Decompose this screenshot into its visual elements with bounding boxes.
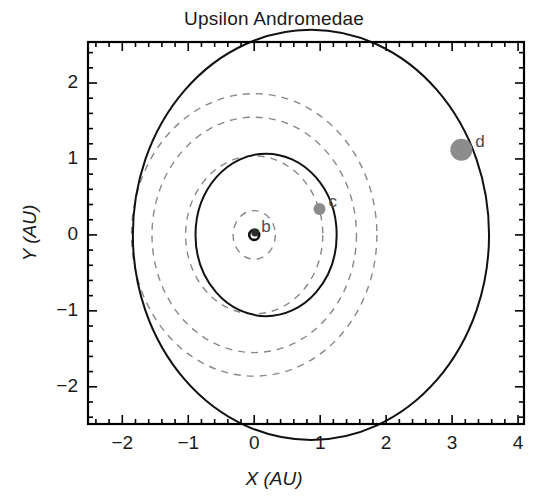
- planet-label-d: d: [475, 132, 484, 152]
- y-tick-label: −2: [32, 375, 78, 397]
- x-tick-label: 4: [488, 432, 548, 454]
- planet-marker-c: [314, 203, 326, 215]
- planet-marker-d: [450, 139, 472, 161]
- page-title: Upsilon Andromedae: [0, 8, 548, 30]
- solid-orbit-layer: [133, 30, 489, 440]
- figure-container: Upsilon Andromedae X (AU) Y (AU) −2−1012…: [0, 0, 548, 502]
- planet-label-b: b: [261, 217, 270, 237]
- planet-label-c: c: [329, 192, 338, 212]
- x-tick-label: 1: [290, 432, 350, 454]
- x-tick-label: 2: [356, 432, 416, 454]
- y-tick-label: 0: [32, 223, 78, 245]
- x-axis-label: X (AU): [0, 468, 548, 490]
- y-tick-label: 2: [32, 71, 78, 93]
- axis-frame: [88, 42, 524, 424]
- x-tick-label: 3: [422, 432, 482, 454]
- axis-frame-layer: [88, 42, 524, 424]
- x-tick-label: −1: [158, 432, 218, 454]
- orbit-plot: [0, 0, 548, 502]
- orbit-path-d: [133, 30, 489, 440]
- x-tick-label: −2: [92, 432, 152, 454]
- y-tick-label: −1: [32, 299, 78, 321]
- y-tick-label: 1: [32, 147, 78, 169]
- x-tick-label: 0: [224, 432, 284, 454]
- planet-marker-b: [251, 229, 259, 237]
- planet-marker-layer: [249, 139, 472, 240]
